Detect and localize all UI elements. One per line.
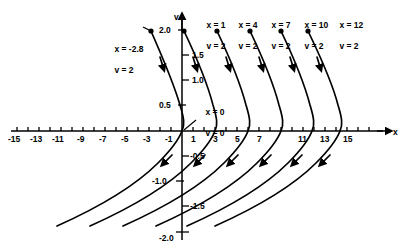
y-tick-label--2-0: -2.0 <box>159 233 174 243</box>
ic3-x: x = 4 <box>238 20 257 30</box>
y-tick-label--1-5: -1.5 <box>190 201 205 211</box>
ic4-x: x = 7 <box>271 20 290 30</box>
ic1-x: x = -2.8 <box>114 44 143 54</box>
x-tick-label--9: -9 <box>77 134 85 144</box>
x-tick-label-13: 13 <box>320 134 329 144</box>
ic5-x: x = 10 <box>304 20 328 30</box>
origin-x: x = 0 <box>205 107 224 117</box>
y-tick-label-0-5: 0.5 <box>159 100 171 110</box>
x-axis-name: x <box>393 127 398 137</box>
x-tick-label--15: -15 <box>8 134 20 144</box>
ic6-x: x = 12 <box>339 20 363 30</box>
initial-condition-label-6: x = 12 v = 2 <box>330 9 363 62</box>
ic2-x: x = 1 <box>206 20 225 30</box>
y-tick-label--1-0: -1.0 <box>152 176 167 186</box>
ic4-v: v = 2 <box>271 41 290 51</box>
ic2-v: v = 2 <box>206 41 225 51</box>
ic6-v: v = 2 <box>339 41 358 51</box>
origin-pointer <box>184 120 196 130</box>
initial-condition-label-3: x = 4 v = 2 <box>229 9 258 62</box>
y-tick-label--0-5: -0.5 <box>190 151 205 161</box>
initial-condition-label-1: x = -2.8 v = 2 <box>105 33 144 86</box>
x-tick-label-11: 11 <box>298 134 307 144</box>
origin-annotation-label: x = 0 v = 0 <box>196 96 225 149</box>
y-tick-label-1-0: 1.0 <box>192 75 204 85</box>
x-tick-label--5: -5 <box>121 134 129 144</box>
ic1-v: v = 2 <box>114 65 133 75</box>
x-tick-label--13: -13 <box>30 134 42 144</box>
x-tick-label--3: -3 <box>143 134 151 144</box>
x-tick-label-7: 7 <box>257 134 262 144</box>
x-tick-label-15: 15 <box>343 134 352 144</box>
y-axis-name: v <box>174 12 179 22</box>
x-tick-label--1: -1 <box>165 134 173 144</box>
x-tick-label--7: -7 <box>99 134 107 144</box>
y-tick-label-2-0: 2.0 <box>159 25 171 35</box>
initial-condition-label-2: x = 1 v = 2 <box>197 9 226 62</box>
initial-condition-label-4: x = 7 v = 2 <box>262 9 291 62</box>
phase-plane-chart: -15 -13 -11 -9 -7 -5 -3 -1 1 3 5 7 11 13… <box>0 0 410 252</box>
origin-v: v = 0 <box>205 128 224 138</box>
ic5-v: v = 2 <box>304 41 323 51</box>
x-tick-label--11: -11 <box>52 134 64 144</box>
ic3-v: v = 2 <box>238 41 257 51</box>
x-tick-label-5: 5 <box>235 134 240 144</box>
initial-condition-label-5: x = 10 v = 2 <box>295 9 328 62</box>
